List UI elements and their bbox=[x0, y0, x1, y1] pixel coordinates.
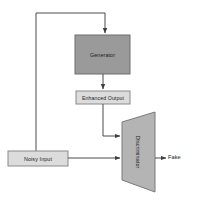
diagram-canvas bbox=[0, 0, 197, 206]
discriminator-shape bbox=[122, 112, 155, 192]
edge-noisy-input-to-generator bbox=[36, 13, 105, 151]
noisy-input-box bbox=[8, 151, 68, 166]
gan-block-diagram: Generator Enhanced Output Noisy Input Di… bbox=[0, 0, 197, 206]
enhanced-output-box bbox=[76, 91, 130, 104]
generator-box bbox=[75, 35, 130, 74]
edge-enhanced-output-to-discriminator bbox=[103, 104, 120, 136]
